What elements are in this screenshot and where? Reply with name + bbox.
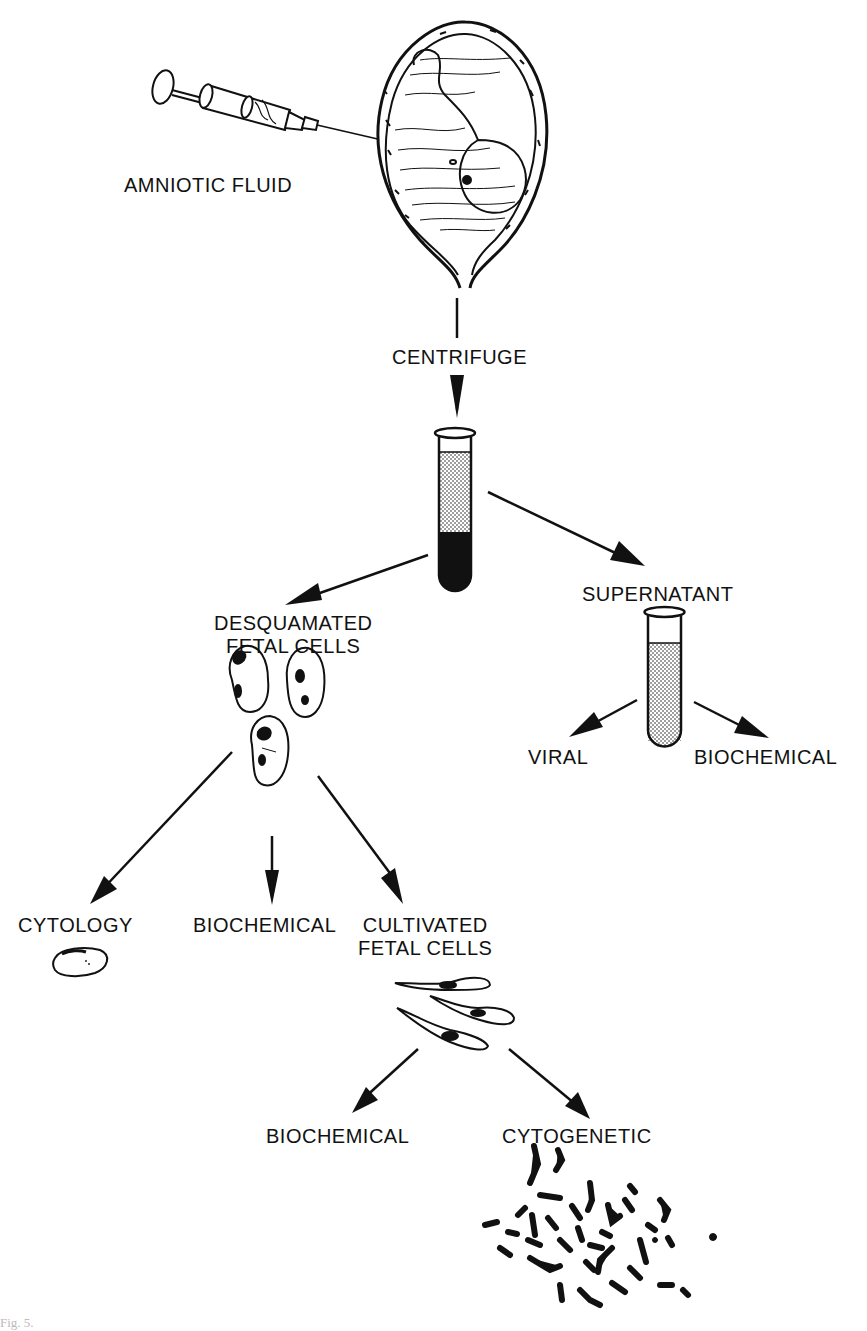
- arrow-to-biochemical-icon: [694, 702, 769, 738]
- arrow-to-cytology-icon: [90, 752, 232, 904]
- label-biochemical-supernatant: BIOCHEMICAL: [694, 746, 837, 769]
- cytology-cell-icon: [53, 948, 107, 976]
- arrow-down-icon: [450, 375, 464, 418]
- cultivated-cells-icon: [395, 978, 514, 1050]
- arrow-to-cultivated-icon: [318, 776, 403, 904]
- label-desquamated-line1: DESQUAMATED: [214, 612, 372, 635]
- label-cultivated-line1: CULTIVATED: [358, 914, 492, 937]
- chromosome-spread-icon: [485, 1146, 717, 1305]
- label-amniotic-fluid: AMNIOTIC FLUID: [124, 174, 292, 197]
- label-desquamated-line2: FETAL CELLS: [214, 635, 372, 658]
- arrow-to-biochemical-cultured-icon: [352, 1049, 418, 1113]
- arrow-left-down-icon: [285, 555, 428, 605]
- arrow-to-viral-icon: [569, 700, 637, 737]
- label-viral: VIRAL: [528, 746, 588, 769]
- label-biochemical-cells: BIOCHEMICAL: [193, 914, 336, 937]
- desquamated-cells-icon: [230, 646, 325, 786]
- arrow-to-cytogenetic-icon: [509, 1049, 590, 1119]
- label-centrifuge: CENTRIFUGE: [392, 346, 527, 369]
- syringe-icon: [149, 68, 395, 143]
- label-cytology: CYTOLOGY: [18, 914, 133, 937]
- label-cultivated-line2: FETAL CELLS: [358, 937, 492, 960]
- arrow-to-biochemical-cells-icon: [265, 836, 279, 905]
- centrifuged-tube-icon: [435, 428, 475, 591]
- label-supernatant: SUPERNATANT: [582, 583, 733, 606]
- label-biochemical-cultured: BIOCHEMICAL: [266, 1125, 409, 1148]
- label-cultivated-fetal-cells: CULTIVATED FETAL CELLS: [358, 914, 492, 960]
- label-desquamated-fetal-cells: DESQUAMATED FETAL CELLS: [214, 612, 372, 658]
- arrow-right-down-icon: [488, 492, 645, 566]
- supernatant-tube-icon: [645, 607, 685, 747]
- figure-caption: Fig. 5.: [0, 1315, 34, 1331]
- label-cytogenetic: CYTOGENETIC: [502, 1125, 652, 1148]
- uterus-fetus-icon: [378, 22, 547, 288]
